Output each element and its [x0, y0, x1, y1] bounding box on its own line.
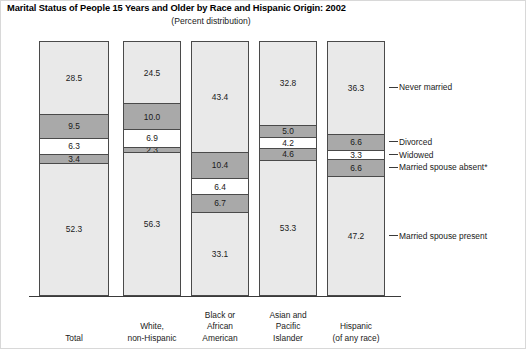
x-axis-label-line: Total [39, 333, 109, 345]
segment-value-label: 5.0 [282, 127, 294, 135]
x-axis-line [29, 296, 401, 297]
bar-asian-and-pacific-islander: 32.85.04.24.653.3 [259, 41, 317, 296]
legend-label: Married spouse absent* [398, 162, 487, 172]
segment-value-label: 6.6 [350, 164, 362, 172]
segment-value-label: 53.3 [280, 224, 296, 232]
segment-value-label: 9.5 [68, 122, 80, 130]
segment-married-spouse-absent: 4.6 [259, 148, 317, 160]
legend-item-married-spouse-absent: Married spouse absent* [389, 162, 487, 172]
segment-value-label: 10.4 [212, 161, 228, 169]
chart-page: Marital Status of People 15 Years and Ol… [0, 0, 526, 349]
segment-value-label: 43.4 [212, 93, 228, 101]
segment-married-spouse-present: 56.3 [123, 152, 181, 296]
stacked-bar-chart: 28.59.56.33.452.3Total24.510.06.92.356.3… [1, 1, 526, 349]
legend-connector-line [389, 87, 398, 88]
segment-divorced: 5.0 [259, 125, 317, 138]
x-axis-label-line: (of any race) [327, 333, 385, 345]
legend-connector-line [389, 235, 398, 236]
segment-value-label: 28.5 [66, 74, 82, 82]
bar-hispanic-of-any-race: 36.36.63.36.647.2 [327, 41, 385, 296]
segment-married-spouse-present: 47.2 [327, 176, 385, 296]
segment-widowed: 6.9 [123, 129, 181, 147]
segment-value-label: 6.3 [68, 142, 80, 150]
x-axis-label-line: Islander [259, 333, 317, 345]
segment-married-spouse-present: 53.3 [259, 160, 317, 296]
x-axis-label-line: Hispanic [327, 321, 385, 333]
segment-value-label: 4.6 [282, 150, 294, 158]
segment-widowed: 3.3 [327, 150, 385, 158]
segment-divorced: 6.6 [327, 134, 385, 151]
x-axis-label-line: African [191, 321, 249, 333]
segment-married-spouse-present: 52.3 [39, 163, 109, 296]
segment-value-label: 47.2 [348, 232, 364, 240]
segment-divorced: 10.0 [123, 103, 181, 129]
segment-divorced: 10.4 [191, 152, 249, 179]
x-axis-label: Total [39, 333, 109, 345]
segment-married-spouse-absent: 6.7 [191, 194, 249, 211]
segment-never-married: 36.3 [327, 41, 385, 134]
x-axis-label-line: Black or [191, 310, 249, 322]
x-axis-label-line: Asian and [259, 310, 317, 322]
segment-value-label: 33.1 [212, 250, 228, 258]
x-axis-label-line: Pacific [259, 321, 317, 333]
segment-married-spouse-absent: 6.6 [327, 159, 385, 176]
segment-value-label: 52.3 [66, 225, 82, 233]
x-axis-label: Hispanic(of any race) [327, 321, 385, 344]
x-axis-label: Asian andPacificIslander [259, 310, 317, 345]
segment-married-spouse-present: 33.1 [191, 212, 249, 296]
legend-item-married-spouse-present: Married spouse present [389, 231, 487, 241]
segment-value-label: 6.7 [214, 199, 226, 207]
legend-label: Widowed [398, 150, 433, 160]
segment-value-label: 6.9 [146, 134, 158, 142]
segment-value-label: 3.3 [350, 151, 362, 159]
legend-connector-line [389, 167, 398, 168]
x-axis-label: Black orAfricanAmerican [191, 310, 249, 345]
x-axis-label: White,non-Hispanic [123, 321, 181, 344]
x-axis-label-line: non-Hispanic [123, 333, 181, 345]
segment-never-married: 32.8 [259, 41, 317, 125]
segment-never-married: 28.5 [39, 41, 109, 114]
legend-label: Married spouse present [398, 231, 487, 241]
legend-label: Never married [398, 82, 452, 92]
legend-item-never-married: Never married [389, 82, 452, 92]
legend-item-divorced: Divorced [389, 137, 432, 147]
segment-value-label: 36.3 [348, 84, 364, 92]
x-axis-label-line: American [191, 333, 249, 345]
legend-item-widowed: Widowed [389, 150, 433, 160]
segment-widowed: 4.2 [259, 137, 317, 148]
segment-value-label: 6.6 [350, 138, 362, 146]
segment-value-label: 32.8 [280, 79, 296, 87]
segment-value-label: 10.0 [144, 113, 160, 121]
segment-divorced: 9.5 [39, 114, 109, 138]
segment-never-married: 43.4 [191, 41, 249, 152]
segment-widowed: 6.3 [39, 138, 109, 154]
segment-value-label: 3.4 [68, 155, 80, 163]
bar-white-non-hispanic: 24.510.06.92.356.3 [123, 41, 181, 296]
bar-total: 28.59.56.33.452.3 [39, 41, 109, 296]
segment-widowed: 6.4 [191, 178, 249, 194]
segment-value-label: 6.4 [214, 183, 226, 191]
segment-value-label: 56.3 [144, 220, 160, 228]
x-axis-label-line: White, [123, 321, 181, 333]
segment-married-spouse-absent: 3.4 [39, 154, 109, 163]
segment-value-label: 4.2 [282, 139, 294, 147]
legend-connector-line [389, 141, 398, 142]
legend-label: Divorced [398, 137, 432, 147]
bar-black-or-african-american: 43.410.46.46.733.1 [191, 41, 249, 296]
legend-connector-line [389, 154, 398, 155]
segment-never-married: 24.5 [123, 41, 181, 103]
segment-value-label: 24.5 [144, 69, 160, 77]
